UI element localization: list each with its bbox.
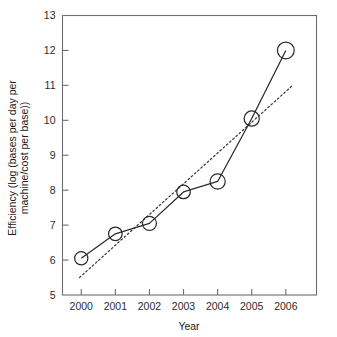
data-point-marker (109, 227, 123, 241)
x-tick-label: 2001 (104, 300, 128, 312)
x-tick-label: 2000 (70, 300, 94, 312)
y-tick-label: 9 (50, 149, 56, 161)
y-axis-title-line1: Efficiency (log (bases per day per (6, 80, 18, 236)
y-tick-label: 6 (50, 254, 56, 266)
y-tick-label: 5 (50, 289, 56, 301)
x-tick-label: 2006 (274, 300, 298, 312)
data-point-marker (75, 252, 88, 265)
x-axis-ticks: 2000200120022003200420052006 (70, 289, 298, 312)
x-tick-label: 2004 (206, 300, 230, 312)
x-tick-label: 2002 (138, 300, 162, 312)
data-point-marker (142, 216, 156, 230)
plot-frame (63, 16, 317, 296)
data-point-markers (75, 42, 295, 265)
trend-line-dotted (80, 85, 293, 277)
y-axis-ticks: 5678910111213 (44, 9, 69, 301)
y-tick-label: 10 (44, 114, 56, 126)
x-axis-title: Year (178, 320, 200, 332)
y-tick-label: 11 (45, 79, 56, 91)
chart-container: 5678910111213 20002001200220032004200520… (0, 0, 337, 337)
data-point-marker (244, 111, 259, 126)
data-point-marker (277, 42, 294, 59)
efficiency-data-line (81, 50, 286, 258)
y-axis-title-group: Efficiency (log (bases per day per machi… (6, 80, 30, 236)
y-tick-label: 13 (44, 9, 56, 21)
x-tick-label: 2005 (240, 300, 264, 312)
data-point-marker (210, 174, 225, 189)
efficiency-vs-year-line-chart: 5678910111213 20002001200220032004200520… (0, 0, 337, 337)
y-axis-title-line2: machine/cost per base)) (18, 102, 30, 215)
x-tick-label: 2003 (172, 300, 196, 312)
y-tick-label: 8 (50, 184, 56, 196)
data-point-marker (177, 185, 191, 199)
y-tick-label: 7 (50, 219, 56, 231)
y-tick-label: 12 (44, 44, 56, 56)
